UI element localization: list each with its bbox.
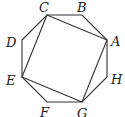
label-g: G [77, 106, 87, 117]
label-b: B [76, 0, 87, 15]
inscribed-square [22, 15, 107, 102]
label-e: E [5, 73, 16, 88]
label-a: A [110, 34, 120, 49]
octagon-diagram: A B C D E F G H [0, 0, 125, 117]
label-h: H [110, 72, 123, 87]
label-d: D [5, 35, 17, 50]
label-c: C [39, 0, 49, 15]
label-f: F [39, 105, 50, 117]
vertex-labels: A B C D E F G H [5, 0, 123, 117]
octagon-outline [22, 15, 107, 102]
